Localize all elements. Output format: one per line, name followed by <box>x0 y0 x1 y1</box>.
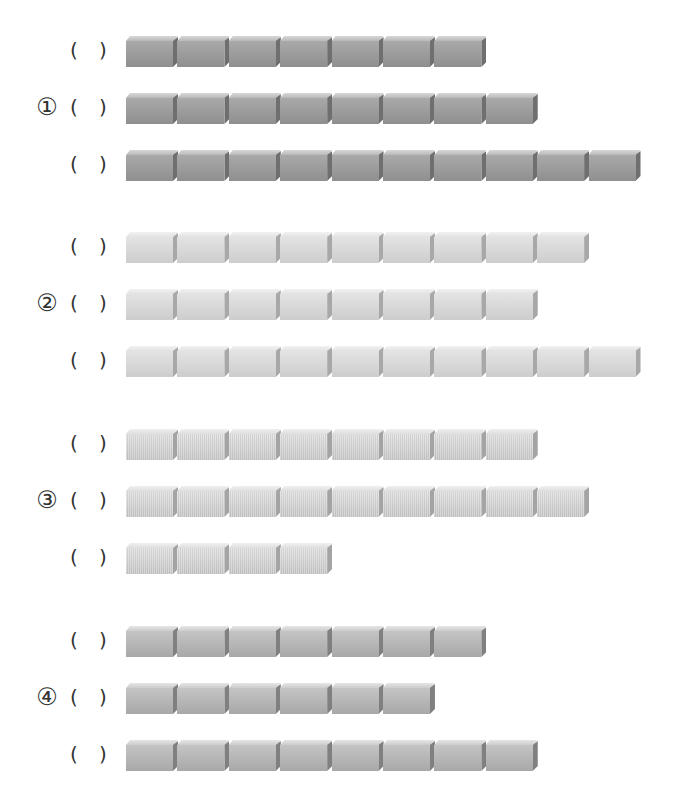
block-icon <box>229 740 280 772</box>
block-icon <box>177 346 228 378</box>
block-icon <box>177 740 228 772</box>
group-3-row-2: ③() <box>0 486 678 518</box>
answer-blank[interactable] <box>80 348 98 372</box>
block-icon <box>383 429 434 461</box>
block-icon <box>332 346 383 378</box>
block-icon <box>280 683 331 715</box>
close-paren: ) <box>99 93 107 121</box>
group-1-row-1: () <box>0 36 678 68</box>
block-icon <box>177 626 228 658</box>
block-icon <box>280 543 331 575</box>
open-paren: ( <box>70 486 78 514</box>
block-bar <box>126 232 589 264</box>
block-icon <box>126 346 177 378</box>
block-bar <box>126 486 589 518</box>
block-icon <box>177 289 228 321</box>
block-icon <box>589 346 640 378</box>
block-icon <box>486 486 537 518</box>
block-icon <box>126 150 177 182</box>
block-icon <box>126 626 177 658</box>
group-3-row-1: () <box>0 429 678 461</box>
block-icon <box>280 289 331 321</box>
block-icon <box>383 683 434 715</box>
open-paren: ( <box>70 429 78 457</box>
open-paren: ( <box>70 740 78 768</box>
block-icon <box>332 289 383 321</box>
block-icon <box>589 150 640 182</box>
block-icon <box>383 486 434 518</box>
block-icon <box>332 93 383 125</box>
close-paren: ) <box>99 740 107 768</box>
answer-blank[interactable] <box>80 488 98 512</box>
block-icon <box>126 740 177 772</box>
block-icon <box>229 626 280 658</box>
close-paren: ) <box>99 543 107 571</box>
block-icon <box>332 150 383 182</box>
block-icon <box>434 429 485 461</box>
answer-blank[interactable] <box>80 628 98 652</box>
block-icon <box>229 232 280 264</box>
block-icon <box>537 486 588 518</box>
block-icon <box>434 346 485 378</box>
answer-blank[interactable] <box>80 431 98 455</box>
block-icon <box>280 36 331 68</box>
close-paren: ) <box>99 150 107 178</box>
block-icon <box>332 486 383 518</box>
block-bar <box>126 683 434 715</box>
block-bar <box>126 740 537 772</box>
block-bar <box>126 36 486 68</box>
block-icon <box>126 93 177 125</box>
group-2-row-3: () <box>0 346 678 378</box>
block-icon <box>280 626 331 658</box>
block-icon <box>486 740 537 772</box>
block-icon <box>332 429 383 461</box>
answer-blank[interactable] <box>80 38 98 62</box>
block-icon <box>383 626 434 658</box>
answer-blank[interactable] <box>80 95 98 119</box>
block-icon <box>332 232 383 264</box>
group-number-label: ③ <box>34 487 60 513</box>
answer-blank[interactable] <box>80 152 98 176</box>
group-number-label: ② <box>34 290 60 316</box>
block-icon <box>434 150 485 182</box>
block-icon <box>177 232 228 264</box>
block-icon <box>177 683 228 715</box>
open-paren: ( <box>70 289 78 317</box>
answer-blank[interactable] <box>80 291 98 315</box>
block-icon <box>486 429 537 461</box>
block-icon <box>280 232 331 264</box>
group-4-row-3: () <box>0 740 678 772</box>
block-icon <box>229 429 280 461</box>
block-icon <box>383 289 434 321</box>
group-2-row-2: ②() <box>0 289 678 321</box>
block-icon <box>229 150 280 182</box>
block-icon <box>229 486 280 518</box>
block-icon <box>229 543 280 575</box>
block-icon <box>280 486 331 518</box>
close-paren: ) <box>99 626 107 654</box>
block-icon <box>177 486 228 518</box>
block-icon <box>383 232 434 264</box>
block-icon <box>486 232 537 264</box>
open-paren: ( <box>70 626 78 654</box>
close-paren: ) <box>99 232 107 260</box>
block-icon <box>434 232 485 264</box>
block-icon <box>383 740 434 772</box>
answer-blank[interactable] <box>80 742 98 766</box>
block-icon <box>486 289 537 321</box>
answer-blank[interactable] <box>80 685 98 709</box>
answer-blank[interactable] <box>80 234 98 258</box>
block-icon <box>177 429 228 461</box>
open-paren: ( <box>70 543 78 571</box>
group-3-row-3: () <box>0 543 678 575</box>
answer-blank[interactable] <box>80 545 98 569</box>
block-bar <box>126 429 537 461</box>
block-icon <box>486 93 537 125</box>
block-icon <box>126 429 177 461</box>
open-paren: ( <box>70 683 78 711</box>
block-icon <box>126 289 177 321</box>
group-number-label: ① <box>34 94 60 120</box>
block-icon <box>177 93 228 125</box>
block-icon <box>177 543 228 575</box>
open-paren: ( <box>70 36 78 64</box>
